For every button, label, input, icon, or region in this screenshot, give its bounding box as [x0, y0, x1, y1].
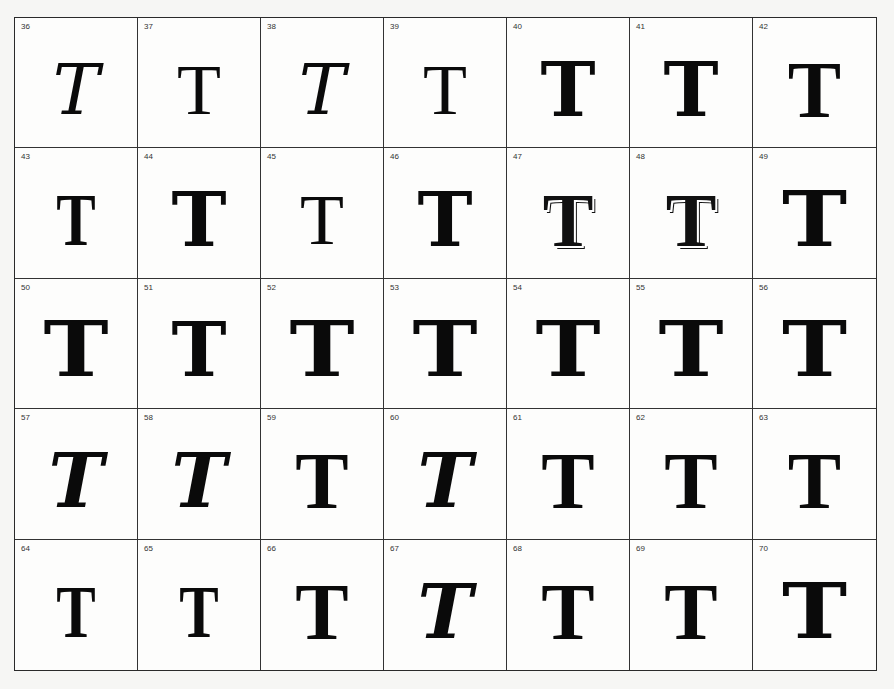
letter-t-glyph: T: [15, 293, 138, 408]
specimen-number: 41: [636, 22, 645, 31]
specimen-cell: 61T: [507, 409, 630, 539]
specimen-cell: 56T: [753, 279, 876, 409]
specimen-cell: 51T: [138, 279, 261, 409]
letter-t-glyph: T: [507, 554, 629, 670]
specimen-cell: 69T: [630, 540, 753, 670]
specimen-cell: 52T: [261, 279, 384, 409]
specimen-cell: 36T: [15, 18, 138, 148]
specimen-number: 48: [636, 152, 645, 161]
specimen-cell: 65T: [138, 540, 261, 670]
letter-t-glyph: T: [261, 162, 383, 277]
specimen-cell: 59T: [261, 409, 384, 539]
specimen-number: 51: [144, 283, 153, 292]
specimen-number: 43: [21, 152, 30, 161]
specimen-number: 62: [636, 413, 645, 422]
letter-t-glyph: T: [630, 162, 752, 277]
specimen-number: 49: [759, 152, 768, 161]
specimen-cell: 54T: [507, 279, 630, 409]
letter-t-glyph: T: [384, 162, 506, 277]
specimen-cell: 42T: [753, 18, 876, 148]
letter-t-glyph: T: [15, 32, 137, 147]
letter-t-glyph: T: [630, 423, 752, 538]
specimen-cell: 57T: [15, 409, 138, 539]
letter-t-glyph: T: [384, 423, 506, 538]
specimen-number: 65: [144, 544, 153, 553]
specimen-number: 56: [759, 283, 768, 292]
specimen-number: 52: [267, 283, 276, 292]
letter-t-glyph: T: [753, 423, 876, 538]
letter-t-glyph: T: [138, 423, 260, 538]
specimen-cell: 38T: [261, 18, 384, 148]
specimen-number: 59: [267, 413, 276, 422]
specimen-number: 36: [21, 22, 30, 31]
letter-t-glyph: T: [384, 32, 506, 147]
letter-t-glyph: T: [753, 32, 876, 147]
letter-t-glyph: T: [630, 32, 752, 147]
specimen-number: 40: [513, 22, 522, 31]
specimen-number: 53: [390, 283, 399, 292]
specimen-number: 58: [144, 413, 153, 422]
specimen-number: 69: [636, 544, 645, 553]
specimen-cell: 50T: [15, 279, 138, 409]
letter-t-glyph: T: [138, 293, 260, 408]
letter-t-glyph: T: [507, 32, 629, 147]
specimen-number: 39: [390, 22, 399, 31]
specimen-grid: 36T37T38T39T40T41T42T43T44T45T46T47T48T4…: [14, 17, 877, 671]
specimen-number: 61: [513, 413, 522, 422]
specimen-cell: 45T: [261, 148, 384, 278]
letter-t-glyph: T: [261, 423, 383, 538]
letter-t-glyph: T: [27, 554, 125, 670]
specimen-cell: 63T: [753, 409, 876, 539]
specimen-cell: 64T: [15, 540, 138, 670]
specimen-number: 60: [390, 413, 399, 422]
letter-t-glyph: T: [507, 162, 629, 277]
specimen-cell: 44T: [138, 148, 261, 278]
specimen-cell: 58T: [138, 409, 261, 539]
specimen-cell: 48T: [630, 148, 753, 278]
specimen-cell: 68T: [507, 540, 630, 670]
letter-t-glyph: T: [753, 293, 876, 408]
specimen-cell: 70T: [753, 540, 876, 670]
specimen-number: 50: [21, 283, 30, 292]
letter-t-glyph: T: [138, 162, 260, 277]
letter-t-glyph: T: [507, 423, 629, 538]
specimen-number: 55: [636, 283, 645, 292]
specimen-cell: 55T: [630, 279, 753, 409]
specimen-cell: 37T: [138, 18, 261, 148]
letter-t-glyph: T: [630, 554, 752, 670]
specimen-cell: 46T: [384, 148, 507, 278]
letter-t-glyph: T: [27, 162, 125, 277]
specimen-number: 44: [144, 152, 153, 161]
specimen-cell: 66T: [261, 540, 384, 670]
letter-t-glyph: T: [261, 554, 383, 670]
letter-t-glyph: T: [384, 554, 506, 670]
specimen-number: 37: [144, 22, 153, 31]
specimen-cell: 47T: [507, 148, 630, 278]
specimen-number: 45: [267, 152, 276, 161]
letter-t-glyph: T: [753, 554, 876, 670]
letter-t-glyph: T: [261, 32, 383, 147]
specimen-number: 68: [513, 544, 522, 553]
specimen-number: 67: [390, 544, 399, 553]
specimen-cell: 62T: [630, 409, 753, 539]
specimen-number: 46: [390, 152, 399, 161]
specimen-cell: 40T: [507, 18, 630, 148]
letter-t-glyph: T: [753, 162, 876, 277]
letter-t-glyph: T: [507, 293, 630, 408]
letter-t-glyph: T: [261, 293, 384, 408]
letter-t-glyph: T: [384, 293, 507, 408]
specimen-cell: 49T: [753, 148, 876, 278]
specimen-number: 47: [513, 152, 522, 161]
specimen-cell: 67T: [384, 540, 507, 670]
letter-t-glyph: T: [15, 423, 137, 538]
specimen-number: 42: [759, 22, 768, 31]
specimen-cell: 53T: [384, 279, 507, 409]
specimen-cell: 39T: [384, 18, 507, 148]
specimen-cell: 41T: [630, 18, 753, 148]
specimen-cell: 60T: [384, 409, 507, 539]
specimen-number: 66: [267, 544, 276, 553]
specimen-number: 64: [21, 544, 30, 553]
specimen-number: 70: [759, 544, 768, 553]
letter-t-glyph: T: [138, 32, 260, 147]
specimen-cell: 43T: [15, 148, 138, 278]
